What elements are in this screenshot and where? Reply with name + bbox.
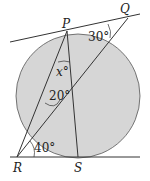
angle-x: x° [56,65,69,79]
label-S: S [74,161,82,175]
geometry-diagram: P Q R S 30° x° 20° 40° [0,0,150,181]
angle-40: 40° [34,141,55,155]
angle-30: 30° [88,30,109,44]
diagram-svg: P Q R S 30° x° 20° 40° [0,0,150,181]
label-P: P [61,17,71,31]
label-R: R [12,161,22,175]
angle-20: 20° [49,89,70,103]
label-Q: Q [120,2,130,16]
circle [16,34,140,158]
